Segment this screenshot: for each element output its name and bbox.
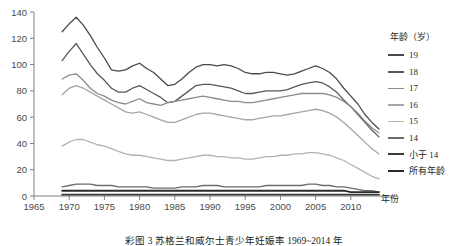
legend-color-swatch: [388, 71, 404, 73]
y-axis-tick-label: 20: [16, 164, 27, 175]
y-axis-tick-label: 40: [16, 138, 27, 149]
plot-area: 0204060801001201401965197019751980198519…: [0, 0, 400, 214]
y-axis-tick-label: 60: [16, 112, 27, 123]
legend-item[interactable]: 16: [388, 97, 468, 114]
legend-item[interactable]: 17: [388, 80, 468, 97]
legend-color-swatch: [388, 104, 404, 106]
series-line: [62, 17, 379, 129]
legend-item[interactable]: 小于 14: [388, 146, 468, 163]
x-axis-tick-label: 1975: [94, 201, 115, 212]
legend-item-label: 小于 14: [409, 148, 438, 161]
y-axis-tick-label: 120: [11, 33, 27, 44]
x-axis-tick-label: 1980: [129, 201, 150, 212]
legend-item[interactable]: 所有年龄: [388, 163, 468, 180]
figure-container: 0204060801001201401965197019751980198519…: [0, 0, 468, 246]
legend-item[interactable]: 19: [388, 47, 468, 64]
x-axis-tick-label: 1985: [164, 201, 185, 212]
x-axis-tick-label: 2000: [270, 201, 291, 212]
x-axis-title: 年份: [381, 192, 399, 205]
x-axis-tick-label: 2010: [340, 201, 361, 212]
series-line: [62, 191, 379, 192]
legend-item-label: 19: [409, 50, 418, 60]
legend-item-label: 15: [409, 116, 418, 126]
legend-color-swatch: [388, 153, 404, 155]
series-line: [62, 44, 379, 137]
legend-item-label: 所有年龄: [409, 164, 445, 177]
legend-item-label: 16: [409, 100, 418, 110]
legend-item-label: 17: [409, 83, 418, 93]
x-axis-tick-label: 1995: [235, 201, 256, 212]
chart-legend: 年龄（岁） 191817161514小于 14所有年龄: [388, 30, 468, 179]
y-axis-tick-label: 80: [16, 85, 27, 96]
legend-title: 年龄（岁）: [390, 30, 468, 43]
legend-color-swatch: [388, 54, 404, 56]
legend-item-label: 18: [409, 67, 418, 77]
y-axis-tick-label: 100: [11, 59, 27, 70]
x-axis-tick-label: 1970: [59, 201, 80, 212]
y-axis-tick-label: 0: [22, 191, 27, 202]
legend-item[interactable]: 14: [388, 130, 468, 147]
y-axis-tick-label: 140: [11, 7, 27, 18]
x-axis-tick-label: 1990: [199, 201, 220, 212]
figure-caption: 彩图 3 苏格兰和威尔士青少年妊娠率 1969~2014 年: [0, 233, 468, 246]
legend-item-label: 14: [409, 133, 418, 143]
legend-rows: 191817161514小于 14所有年龄: [388, 47, 468, 179]
line-chart: 0204060801001201401965197019751980198519…: [0, 0, 400, 214]
series-line: [62, 139, 379, 178]
x-axis-tick-label: 1965: [23, 201, 44, 212]
legend-color-swatch: [388, 170, 404, 172]
legend-color-swatch: [388, 121, 404, 123]
legend-item[interactable]: 15: [388, 113, 468, 130]
legend-item[interactable]: 18: [388, 64, 468, 81]
legend-color-swatch: [388, 88, 404, 90]
x-axis-tick-label: 2005: [305, 201, 326, 212]
legend-color-swatch: [388, 137, 404, 139]
